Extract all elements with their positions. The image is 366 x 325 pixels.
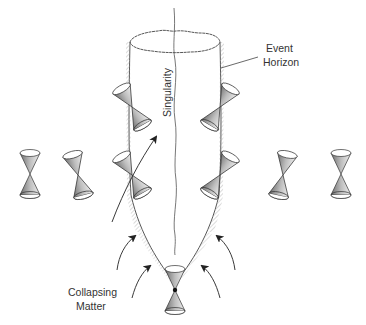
collapsing-matter-label-line2: Matter (76, 300, 106, 312)
event-horizon-label-line1: Event (266, 42, 293, 54)
apex-point (173, 288, 177, 292)
singularity-label: Singularity (161, 67, 173, 117)
singularity-line (174, 8, 177, 255)
black-hole-diagram: Singularity Event Horizon Collapsing Mat… (0, 0, 366, 325)
light-cone-horizon-left-lower (111, 149, 153, 201)
collapsing-matter-label-line1: Collapsing (68, 286, 117, 298)
light-cone-right (268, 149, 298, 201)
light-cone-far-left (20, 150, 40, 199)
light-cone-horizon-left-upper (111, 81, 153, 133)
light-cone-left (62, 149, 94, 202)
light-cone-far-right (331, 150, 351, 199)
event-horizon-label-line2: Horizon (263, 56, 299, 68)
event-horizon-leader (221, 57, 258, 68)
